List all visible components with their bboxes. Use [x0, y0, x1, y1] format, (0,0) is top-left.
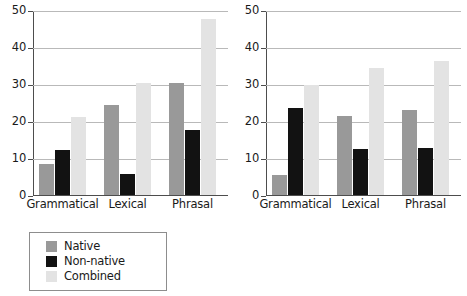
gridline — [266, 85, 461, 86]
y-axis-labels-right: 01020304050 — [233, 0, 259, 215]
bar — [337, 116, 352, 195]
x-axis-category-label: Lexical — [341, 199, 379, 211]
axes-left — [33, 11, 228, 196]
plot-area-right: 01020304050 GrammaticalLexicalPhrasal — [233, 0, 466, 215]
bar — [288, 108, 303, 195]
y-axis-tick-label: 10 — [233, 153, 259, 165]
chart-panel-left: 01020304050 GrammaticalLexicalPhrasal Na… — [0, 0, 233, 296]
x-axis-line — [266, 195, 461, 196]
x-axis-category-label: Phrasal — [405, 199, 446, 211]
y-axis-tick-mark — [28, 159, 33, 160]
bar — [55, 150, 70, 195]
y-axis-tick-mark — [28, 48, 33, 49]
y-axis-tick-label: 30 — [233, 79, 259, 91]
y-axis-tick-label: 40 — [0, 42, 26, 54]
y-axis-tick-mark — [261, 196, 266, 197]
gridline — [33, 11, 228, 12]
bar — [136, 83, 151, 195]
bar — [369, 68, 384, 195]
legend-swatch-icon — [46, 241, 57, 252]
legend-left: NativeNon-nativeCombined — [29, 232, 167, 291]
plot-area-left: 01020304050 GrammaticalLexicalPhrasal — [0, 0, 233, 215]
legend-swatch-icon — [46, 271, 57, 282]
y-axis-tick-label: 10 — [0, 153, 26, 165]
bar — [169, 83, 184, 195]
y-axis-tick-label: 0 — [233, 190, 259, 202]
bar — [71, 117, 86, 195]
x-axis-category-label: Grammatical — [259, 199, 331, 211]
x-axis-category-label: Lexical — [108, 199, 146, 211]
bar — [39, 164, 54, 195]
y-axis-tick-mark — [28, 196, 33, 197]
bar — [185, 130, 200, 195]
legend-item-label: Non-native — [64, 256, 125, 268]
y-axis-labels-left: 01020304050 — [0, 0, 26, 215]
gridline — [33, 48, 228, 49]
legend-item-label: Native — [64, 241, 100, 253]
y-axis-line — [33, 11, 34, 196]
legend-item: Non-native — [30, 254, 166, 269]
figure-grouped-bar-charts: 01020304050 GrammaticalLexicalPhrasal Na… — [0, 0, 467, 296]
bar — [434, 61, 449, 195]
gridline — [33, 122, 228, 123]
y-axis-tick-label: 50 — [0, 5, 26, 17]
bar — [418, 148, 433, 195]
gridline — [266, 11, 461, 12]
x-axis-category-label: Grammatical — [26, 199, 98, 211]
axes-right — [266, 11, 461, 196]
legend-item-label: Combined — [64, 271, 121, 283]
y-axis-tick-label: 20 — [233, 116, 259, 128]
bar — [304, 85, 319, 195]
bar — [402, 110, 417, 195]
x-axis-category-label: Phrasal — [172, 199, 213, 211]
y-axis-tick-mark — [261, 159, 266, 160]
y-axis-tick-label: 20 — [0, 116, 26, 128]
y-axis-tick-mark — [28, 122, 33, 123]
y-axis-line — [266, 11, 267, 196]
y-axis-tick-label: 0 — [0, 190, 26, 202]
bar — [201, 19, 216, 195]
legend-swatch-icon — [46, 256, 57, 267]
gridline — [33, 85, 228, 86]
bar — [120, 174, 135, 195]
gridline — [266, 48, 461, 49]
y-axis-tick-mark — [28, 85, 33, 86]
y-axis-tick-mark — [28, 11, 33, 12]
legend-item: Combined — [30, 269, 166, 284]
y-axis-tick-mark — [261, 11, 266, 12]
y-axis-tick-mark — [261, 85, 266, 86]
y-axis-tick-mark — [261, 48, 266, 49]
bar — [353, 149, 368, 195]
bar — [104, 105, 119, 195]
y-axis-tick-label: 40 — [233, 42, 259, 54]
y-axis-tick-label: 30 — [0, 79, 26, 91]
x-axis-labels-right: GrammaticalLexicalPhrasal — [266, 199, 461, 215]
y-axis-tick-label: 50 — [233, 5, 259, 17]
chart-panel-right: 01020304050 GrammaticalLexicalPhrasal Na… — [233, 0, 466, 296]
x-axis-labels-left: GrammaticalLexicalPhrasal — [33, 199, 228, 215]
y-axis-tick-mark — [261, 122, 266, 123]
legend-item: Native — [30, 239, 166, 254]
bar — [272, 175, 287, 195]
x-axis-line — [33, 195, 228, 196]
